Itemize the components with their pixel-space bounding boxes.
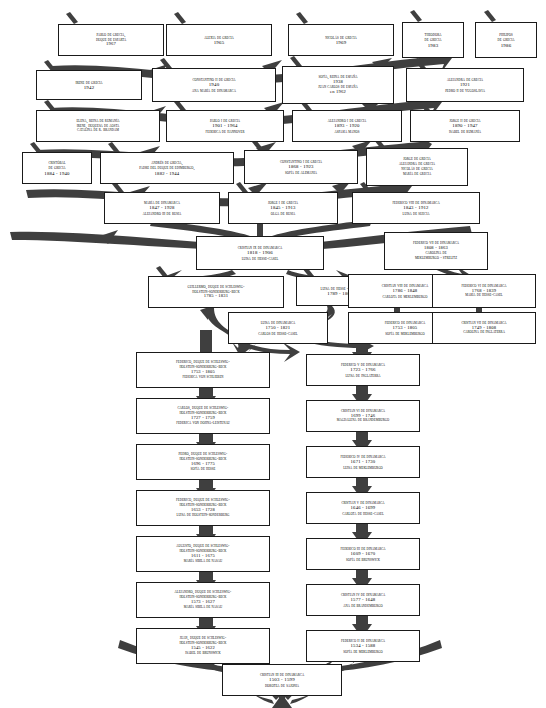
person-node-line: Carolina de Inglaterra (435, 330, 533, 335)
person-node-line: Luisa de Meklemburgo (309, 465, 417, 470)
person-node[interactable]: Pablo I de Grecia1901 - 1964Federica de … (166, 110, 284, 142)
person-node[interactable]: Pedro, duque de Schleswig-Holstein-Sonde… (136, 444, 270, 480)
person-node-line: María Sibila de Nasau (139, 559, 267, 564)
person-node-line: Pedro II de Yugoslavia (409, 88, 521, 93)
person-node[interactable]: Federico IV de Dinamarca1671 - 1730Luisa… (306, 446, 420, 478)
person-node[interactable]: Cristian IX de Dinamarca1818 - 1906Luisa… (196, 236, 324, 270)
person-node-line: Ana María de Dinamarca (155, 88, 273, 93)
person-node[interactable]: Jorge de GreciaAlejandra de GreciaNicolá… (366, 148, 468, 186)
person-node-line: María de Grecia (369, 172, 465, 177)
person-node-line: Meklemburgo - Strelitz (387, 256, 485, 261)
person-node-line: en 1962 (285, 90, 391, 95)
person-node-line: Aspasia Manos (295, 129, 399, 134)
person-node[interactable]: Constantino II de Grecia1940Ana María de… (152, 68, 276, 102)
person-node-line: Luisa de Inglaterra (309, 373, 417, 378)
person-node-line: María de Hesse-Casel (435, 293, 533, 298)
person-node-line: Dorotea de Sajonia (225, 683, 339, 688)
person-node[interactable]: Alexia de Grecia1965 (166, 24, 272, 56)
person-node[interactable]: Alejandro, duque de Schleswig-Holstein-S… (136, 582, 270, 618)
person-node[interactable]: Cristóbalde Grecia1884 - 1940 (22, 152, 92, 184)
person-node[interactable]: Federico, duque de Schleswig-Holstein-So… (136, 490, 270, 526)
person-node-line: Isabel de Brunswick (139, 651, 267, 656)
person-node[interactable]: Federico, duque de Schleswig-Holstein-So… (136, 352, 270, 388)
person-node[interactable]: Irene de Grecia1942 (36, 70, 142, 100)
person-node[interactable]: Federico III de Dinamarca1609 - 1670Sofí… (306, 538, 420, 570)
person-node-line: Ana de Brandemburgo (309, 603, 417, 608)
person-node-line: Olga de Rusia (231, 211, 335, 216)
person-node-line: Federica von Dohna-Leistenau (139, 421, 267, 426)
person-node[interactable]: Jorge II de Grecia1890 - 1947Isabel de R… (410, 110, 520, 142)
person-node[interactable]: Carlos, duque de Schleswig-Holstein-Sond… (136, 398, 270, 434)
person-node-line: 1967 (61, 42, 161, 47)
genealogy-diagram: Pablo de Grecia,Duque de Esparta1967Alex… (0, 0, 546, 708)
person-node[interactable]: Luisa de Dinamarca1750 - 1821Carlos de H… (228, 312, 328, 344)
person-node[interactable]: Nicolás de Grecia1969 (288, 24, 394, 56)
person-node-line: Sofía de Hesse (139, 467, 267, 472)
person-node-line: 1942 (39, 85, 139, 90)
person-node-line: Magdalena de Brandemburgo (309, 418, 417, 423)
person-node-line: Federica von Schlieben (139, 375, 267, 380)
person-node[interactable]: Alejandro I de Grecia1893 - 1920Aspasia … (292, 110, 402, 142)
connector-arrow-layer (0, 0, 546, 708)
person-node-line: Sofía de Alemania (247, 170, 355, 175)
person-node[interactable]: Philiposde Grecia1986 (475, 22, 537, 58)
person-node-line: Carlota de Hesse-Casel (309, 511, 417, 516)
person-node[interactable]: Cristian VII de Dinamarca1749 - 1808Caro… (432, 312, 536, 344)
person-node[interactable]: Federico II de Dinamarca1534 - 1588Sofía… (306, 630, 420, 662)
person-node[interactable]: María de Dinamarca1847 - 1928Alejandro I… (104, 192, 220, 224)
person-node[interactable]: Andrés de Grecia,Padre del Duque de Edim… (100, 152, 234, 184)
person-node[interactable]: Juan, duque de Schleswig-Holstein-Sonder… (136, 628, 270, 664)
person-node[interactable]: Federico VIII de Dinamarca1843 - 1912Lui… (352, 192, 480, 224)
person-node-line: 1986 (478, 43, 534, 48)
person-node-line: Luisa de Suecia (355, 211, 477, 216)
person-node[interactable]: Alejandra de Grecia1921Pedro II de Yugos… (406, 68, 524, 102)
person-node-line: 1884 - 1940 (25, 171, 89, 176)
person-node[interactable]: Guillermo, Duque de Schleswig-Holstein-S… (148, 276, 284, 308)
person-node-line: 1785 - 1831 (151, 294, 281, 299)
person-node-line: 1965 (169, 40, 269, 45)
person-node[interactable]: Cristian VI de Dinamarca1699 - 1746Magda… (306, 400, 420, 432)
person-node-line: Luisa de Hesse-Casel (199, 256, 321, 261)
person-node[interactable]: Federico V de Dinamarca1723 - 1766Luisa … (306, 354, 420, 386)
person-node[interactable]: Pablo de Grecia,Duque de Esparta1967 (58, 24, 164, 56)
person-node[interactable]: Federico VI de Dinamarca1768 - 1839María… (432, 274, 536, 308)
person-node-line: 1983 (405, 43, 461, 48)
person-node-line: Federica de Hannover (169, 129, 281, 134)
person-node-line: Isabel de Rumanía (413, 129, 517, 134)
person-node-line: 1969 (291, 40, 391, 45)
person-node[interactable]: Theodorade Grecia1983 (402, 22, 464, 58)
person-node[interactable]: Sofía, reina de España1938Juan Carlos de… (282, 66, 394, 104)
person-node-line: Carlos de Hesse-Casel (231, 331, 325, 336)
person-node[interactable]: Elena, reina de RumaníaIrene, duquesa de… (36, 110, 160, 142)
person-node-line: Luisa de Holstein-Sonderburg (139, 513, 267, 518)
person-node[interactable]: Cristian III de Dinamarca1503 - 1599Doro… (222, 664, 342, 696)
person-node[interactable]: Federico VII de Dinamarca1808 - 1863Caro… (384, 232, 488, 270)
person-node[interactable]: Jorge I de Grecia1845 - 1913Olga de Rusi… (228, 192, 338, 224)
person-node-line: Catalina de R. Brandam (39, 128, 157, 133)
person-node-line: Sofía de Brunswick (309, 557, 417, 562)
person-node-line: María Sibila de Nasau (139, 605, 267, 610)
person-node[interactable]: Augusto, duque de Schleswig-Holstein-Son… (136, 536, 270, 572)
person-node[interactable]: Constantino I de Grecia1868 - 1923Sofía … (244, 150, 358, 184)
person-node-line: 1882 - 1944 (103, 171, 231, 176)
person-node-line: Alejandro III de Rusia (107, 211, 217, 216)
person-node[interactable]: Cristian V de Dinamarca1646 - 1699Carlot… (306, 492, 420, 524)
person-node[interactable]: Cristian IV de Dinamarca1577 - 1648Ana d… (306, 584, 420, 616)
person-node-line: Sofía de Meklemburgo (309, 649, 417, 654)
